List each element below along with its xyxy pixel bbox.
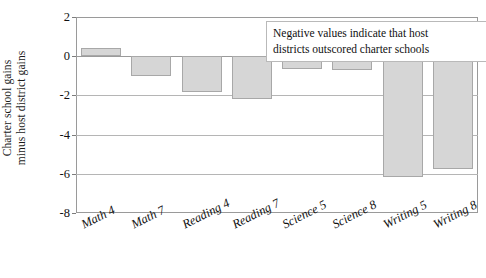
y-tick-label--4: -4: [60, 127, 70, 142]
plot-area: Negative values indicate that host distr…: [76, 17, 478, 213]
annotation-line-1: Negative values indicate that host: [273, 25, 481, 41]
y-axis-ticks: 20-2-4-6-8: [0, 17, 76, 213]
y-tick-label-2: 2: [64, 10, 70, 25]
bar-writing-8: [433, 56, 473, 169]
annotation-line-2: districts outscored charter schools: [273, 41, 481, 57]
y-tick-label--8: -8: [60, 206, 70, 221]
x-axis-labels: Math 4Math 7Reading 4Reading 7Science 5S…: [76, 213, 478, 278]
y-tick-label--6: -6: [60, 166, 70, 181]
bar-math-7: [131, 56, 171, 76]
annotation-note: Negative values indicate that host distr…: [266, 21, 486, 62]
bar-reading-7: [232, 56, 272, 99]
y-tick-label-0: 0: [64, 49, 70, 64]
bar-math-4: [81, 48, 121, 56]
bar-writing-5: [383, 56, 423, 177]
bar-reading-4: [182, 56, 222, 92]
chart-page: Charter school gains minus host district…: [0, 0, 486, 278]
y-tick-label--2: -2: [60, 88, 70, 103]
